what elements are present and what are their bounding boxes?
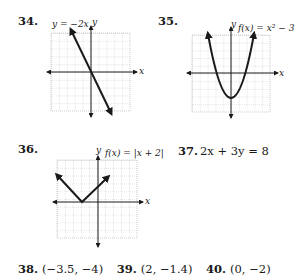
answer-row: 38.(−3.5, −4) 39.(2, −1.4) 40.(0, −2) [18,262,281,276]
problem-number-39: 39. [117,262,137,276]
equation-37: 2x + 3y = 8 [200,144,269,158]
equation-37-text: 2x + 3y = 8 [200,144,269,158]
answer-38: 38.(−3.5, −4) [18,262,103,276]
problem-number-38: 38. [18,262,38,276]
problem-number-40: 40. [206,262,226,276]
answer-40: 40.(0, −2) [206,262,271,276]
answer-40-value: (0, −2) [230,262,271,276]
answer-39-value: (2, −1.4) [141,262,193,276]
answer-38-value: (−3.5, −4) [42,262,103,276]
graph-36 [0,0,150,273]
problem-number-37: 37. [178,144,198,158]
answer-39: 39.(2, −1.4) [117,262,193,276]
